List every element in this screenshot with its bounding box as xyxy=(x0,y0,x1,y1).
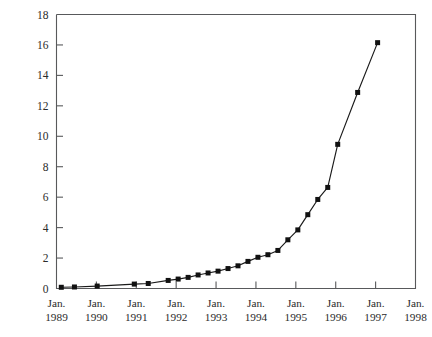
data-point-marker xyxy=(325,185,330,190)
x-tick-label-year: 1996 xyxy=(324,311,347,323)
data-point-marker xyxy=(72,284,77,289)
x-tick-label-month: Jan. xyxy=(327,297,345,309)
x-tick-label-year: 1989 xyxy=(45,311,68,323)
data-point-marker xyxy=(265,252,270,257)
y-tick-label: 2 xyxy=(43,252,49,264)
data-point-marker xyxy=(235,263,240,268)
data-point-marker xyxy=(216,269,221,274)
y-tick-label: 10 xyxy=(37,130,49,142)
data-point-marker xyxy=(176,277,181,282)
x-tick-label-year: 1994 xyxy=(245,311,268,323)
x-tick-label-month: Jan. xyxy=(87,297,105,309)
y-tick-label: 18 xyxy=(37,9,49,21)
data-point-marker xyxy=(355,90,360,95)
data-point-marker xyxy=(335,142,340,147)
x-tick-label-month: Jan. xyxy=(48,297,66,309)
y-tick-label: 12 xyxy=(37,100,49,112)
data-point-marker xyxy=(255,255,260,260)
x-tick-label-year: 1997 xyxy=(364,311,387,323)
data-point-marker xyxy=(166,278,171,283)
x-tick-label-year: 1990 xyxy=(85,311,108,323)
data-point-marker xyxy=(285,237,290,242)
x-tick-label-month: Jan. xyxy=(367,297,385,309)
y-tick-label: 4 xyxy=(43,222,49,234)
x-tick-label-year: 1991 xyxy=(125,311,148,323)
x-tick-label-year: 1998 xyxy=(404,311,427,323)
y-axis-ticks xyxy=(57,45,64,258)
x-tick-label-month: Jan. xyxy=(247,297,265,309)
data-point-marker xyxy=(59,285,64,290)
y-axis-tick-labels: 024681012141618 xyxy=(37,9,49,295)
x-tick-label-year: 1995 xyxy=(285,311,308,323)
data-point-marker xyxy=(95,284,100,289)
x-tick-label-month: Jan. xyxy=(127,297,145,309)
x-tick-label-month: Jan. xyxy=(287,297,305,309)
y-tick-label: 6 xyxy=(43,191,49,203)
data-point-marker xyxy=(305,212,310,217)
data-point-marker xyxy=(226,266,231,271)
x-axis-ticks xyxy=(96,282,375,289)
data-point-marker xyxy=(196,272,201,277)
data-point-marker xyxy=(206,270,211,275)
data-point-marker xyxy=(295,227,300,232)
x-tick-label-month: Jan. xyxy=(167,297,185,309)
x-tick-label-month: Jan. xyxy=(407,297,425,309)
data-point-marker xyxy=(375,40,380,45)
data-point-marker xyxy=(275,248,280,253)
growth-chart: 024681012141618 Jan.1989Jan.1990Jan.1991… xyxy=(0,0,432,337)
y-tick-label: 0 xyxy=(43,283,49,295)
x-tick-label-year: 1993 xyxy=(205,311,228,323)
data-point-marker xyxy=(146,281,151,286)
x-axis-tick-labels: Jan.1989Jan.1990Jan.1991Jan.1992Jan.1993… xyxy=(45,297,427,323)
x-tick-label-year: 1992 xyxy=(165,311,188,323)
plot-frame xyxy=(57,15,416,289)
y-tick-label: 14 xyxy=(37,69,49,81)
data-point-marker xyxy=(315,197,320,202)
data-point-marker xyxy=(245,259,250,264)
chart-canvas: 024681012141618 Jan.1989Jan.1990Jan.1991… xyxy=(0,0,432,337)
data-point-marker xyxy=(186,275,191,280)
y-tick-label: 8 xyxy=(43,161,49,173)
data-point-markers xyxy=(59,40,380,290)
data-point-marker xyxy=(132,282,137,287)
y-tick-label: 16 xyxy=(37,39,49,51)
x-tick-label-month: Jan. xyxy=(207,297,225,309)
data-series xyxy=(59,40,380,290)
